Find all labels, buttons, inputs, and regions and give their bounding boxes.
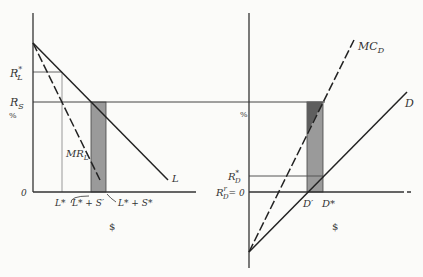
mc-d-label: MCD (357, 40, 385, 55)
right-y-axis-label: % (240, 110, 248, 119)
marginal-revenue-curve (33, 43, 100, 180)
s-star-pointer-arrow (107, 194, 116, 202)
d-prime-tick-label: D′ (302, 198, 314, 209)
l-star-plus-s-prime-label: L* + S′ (71, 198, 104, 208)
deposit-supply-curve (249, 92, 407, 252)
mr-l-label: MRL (65, 148, 89, 162)
left-y-axis-label: % (9, 111, 17, 120)
diagram-canvas: R*L RS % MRL L 0 L* L* + S′ L* + S* $ % … (0, 0, 423, 277)
left-panel: R*L RS % MRL L 0 L* L* + S′ L* + S* $ (9, 13, 325, 232)
r-d-star-label: R*D (227, 169, 241, 185)
d-curve-label: D (404, 97, 414, 110)
left-x-axis-label: $ (109, 221, 115, 232)
r-d-prime-label: RrD= 0 (215, 185, 245, 201)
l-curve-label: L (171, 173, 179, 184)
l-star-plus-s-star-label: L* + S* (117, 198, 153, 208)
r-s-label: RS (9, 96, 24, 111)
origin-label: 0 (21, 188, 27, 198)
right-x-axis-label: $ (332, 221, 338, 232)
right-panel: % MCD D R*D RrD= 0 D′ D* $ (215, 13, 414, 268)
r-l-star-label: R*L (9, 65, 23, 82)
l-star-tick-label: L* (54, 198, 66, 208)
d-star-tick-label: D* (321, 198, 335, 209)
